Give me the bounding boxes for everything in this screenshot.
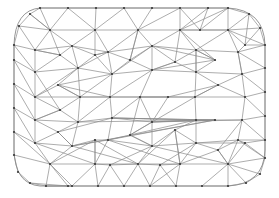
mesh-node (174, 61, 176, 63)
mesh-node (94, 29, 96, 31)
mesh-node (179, 7, 181, 9)
mesh-node (71, 145, 73, 147)
mesh-node (237, 139, 239, 141)
mesh-figure (0, 0, 279, 198)
mesh-node (175, 185, 177, 187)
mesh-node (151, 7, 153, 9)
mesh-node (151, 45, 153, 47)
mesh-node (214, 119, 216, 121)
mesh-node (129, 59, 131, 61)
mesh-node (264, 91, 266, 93)
mesh-node (264, 44, 266, 46)
mesh-node (34, 96, 36, 98)
mesh-node (29, 182, 31, 184)
mesh-node (13, 83, 15, 85)
mesh-node (151, 145, 153, 147)
mesh-node (167, 96, 169, 98)
mesh-node (207, 7, 209, 9)
mesh-node (227, 7, 229, 9)
mesh-node (259, 27, 261, 29)
mesh-node (227, 29, 229, 31)
mesh-node (95, 7, 97, 9)
mesh-node (67, 7, 69, 9)
mesh-node (79, 96, 81, 98)
mesh-node (227, 185, 229, 187)
mesh-node (264, 139, 266, 141)
mesh-node (57, 84, 59, 86)
mesh-node (123, 185, 125, 187)
mesh-node (17, 171, 19, 173)
mesh-node (13, 44, 15, 46)
mesh-node (13, 107, 15, 109)
mesh-node (94, 163, 96, 165)
mesh-node (49, 163, 51, 165)
mesh-node (77, 67, 79, 69)
mesh-node (201, 185, 203, 187)
mesh-node (107, 139, 109, 141)
mesh-node (34, 142, 36, 144)
mesh-node (264, 157, 266, 159)
mesh-node (123, 7, 125, 9)
mesh-node (29, 13, 31, 15)
mesh-node (45, 185, 47, 187)
mesh-node (244, 44, 246, 46)
mesh-node (137, 29, 139, 31)
mesh-node (214, 59, 216, 61)
mesh-node (34, 119, 36, 121)
mesh-node (39, 7, 41, 9)
mesh-node (195, 142, 197, 144)
mesh-node (97, 185, 99, 187)
mesh-node (259, 173, 261, 175)
mesh-node (59, 109, 61, 111)
mesh-node (34, 71, 36, 73)
mesh-node (237, 51, 239, 53)
mesh-node (151, 121, 153, 123)
mesh-node (227, 163, 229, 165)
mesh-node (67, 185, 69, 187)
mesh-node (57, 131, 59, 133)
mesh-node (217, 149, 219, 151)
mesh-node (241, 119, 243, 121)
mesh-node (111, 73, 113, 75)
mesh-node (179, 29, 181, 31)
mesh-node (13, 131, 15, 133)
mesh-node (245, 182, 247, 184)
mesh-node (59, 54, 61, 56)
mesh-node (13, 59, 15, 61)
mesh-node (49, 29, 51, 31)
mesh-node (137, 163, 139, 165)
mesh-node (139, 96, 141, 98)
mesh-node (149, 185, 151, 187)
mesh-node (195, 119, 197, 121)
mesh-node (129, 134, 131, 136)
mesh-node (248, 13, 250, 15)
mesh-node (77, 121, 79, 123)
mesh-node (71, 185, 73, 187)
mesh-canvas (0, 0, 279, 198)
mesh-node (159, 164, 161, 166)
mesh-node (217, 84, 219, 86)
mesh-node (264, 67, 266, 69)
mesh-node (151, 69, 153, 71)
mesh-node (179, 163, 181, 165)
mesh-node (107, 51, 109, 53)
mesh-node (111, 117, 113, 119)
mesh-node (174, 129, 176, 131)
mesh-node (109, 96, 111, 98)
mesh-node (195, 71, 197, 73)
mesh-node (241, 73, 243, 75)
mesh-node (264, 115, 266, 117)
mesh-node (199, 29, 201, 31)
mesh-node (244, 142, 246, 144)
mesh-node (18, 25, 20, 27)
mesh-node (109, 164, 111, 166)
mesh-node (94, 54, 96, 56)
mesh-node (94, 139, 96, 141)
mesh-node (34, 49, 36, 51)
mesh-node (71, 45, 73, 47)
mesh-node (13, 154, 15, 156)
mesh-node (195, 49, 197, 51)
mesh-node (244, 96, 246, 98)
mesh-node (194, 96, 196, 98)
